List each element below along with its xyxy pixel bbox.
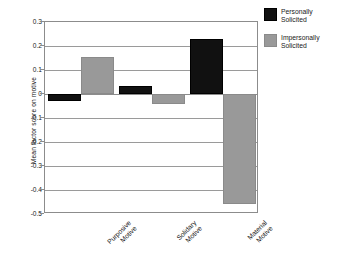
bar-chart-figure: Mean factor score on motive 0.30.20.10-0… xyxy=(0,0,342,277)
y-tick-label: -0.1 xyxy=(2,114,42,121)
legend-swatch-impersonally xyxy=(264,34,277,47)
y-tick-mark xyxy=(40,213,44,214)
y-tick-label: -0.4 xyxy=(2,186,42,193)
y-tick-label: 0.2 xyxy=(2,42,42,49)
gridline xyxy=(45,70,257,71)
y-tick-label: 0.1 xyxy=(2,66,42,73)
bar-personally-1 xyxy=(48,94,81,101)
y-tick-label: 0.3 xyxy=(2,18,42,25)
legend-label-line1: Personally xyxy=(281,8,313,16)
bar-impersonally-3 xyxy=(223,94,256,204)
bar-personally-3 xyxy=(190,39,223,94)
y-tick-label: -0.5 xyxy=(2,210,42,217)
legend-label-line2: Solicited xyxy=(281,42,320,50)
gridline xyxy=(45,46,257,47)
legend-label-impersonally: ImpersonallySolicited xyxy=(281,34,320,51)
legend-label-line2: Solicited xyxy=(281,16,313,24)
bar-personally-2 xyxy=(119,86,152,94)
legend-label-personally: PersonallySolicited xyxy=(281,8,313,25)
x-category-label-1: PurposiveMotive xyxy=(106,219,139,252)
y-tick-label: 0 xyxy=(2,90,42,97)
legend-item-impersonally: ImpersonallySolicited xyxy=(264,34,342,51)
legend-label-line1: Impersonally xyxy=(281,34,320,42)
bar-impersonally-2 xyxy=(152,94,185,104)
bar-impersonally-1 xyxy=(81,57,114,94)
legend-swatch-personally xyxy=(264,8,277,21)
y-axis-title: Mean factor score on motive xyxy=(30,41,37,201)
legend: PersonallySolicitedImpersonallySolicited xyxy=(264,8,342,60)
x-category-label-2: SolidaryMotive xyxy=(175,219,204,248)
y-tick-label: -0.3 xyxy=(2,162,42,169)
x-category-label-3: MaterialMotive xyxy=(246,219,275,248)
plot-area xyxy=(44,21,258,213)
legend-item-personally: PersonallySolicited xyxy=(264,8,342,25)
y-tick-label: -0.2 xyxy=(2,138,42,145)
